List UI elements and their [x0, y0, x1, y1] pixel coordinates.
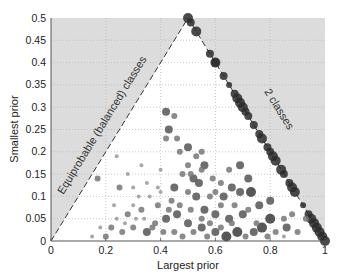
data-point	[245, 207, 251, 213]
x-tick-label: 0	[48, 244, 54, 256]
data-point	[95, 176, 101, 182]
data-point	[228, 183, 236, 191]
data-point	[265, 214, 275, 224]
data-point	[185, 162, 191, 168]
data-point	[188, 171, 194, 177]
data-point	[117, 184, 123, 190]
data-point	[184, 219, 192, 227]
data-point	[303, 216, 309, 222]
data-point	[218, 180, 224, 186]
data-point	[207, 220, 213, 226]
y-tick-label: 0.3	[31, 101, 46, 113]
data-point	[218, 202, 224, 208]
data-point	[170, 183, 178, 191]
data-point	[177, 149, 183, 155]
y-tick-label: 0.15	[26, 168, 47, 180]
data-point	[211, 210, 219, 218]
data-point	[192, 192, 200, 200]
data-point	[177, 202, 183, 208]
y-tick-label: 0.1	[31, 190, 46, 202]
data-point	[166, 207, 172, 213]
data-point	[221, 232, 231, 242]
data-point	[198, 224, 206, 232]
data-point	[184, 143, 192, 151]
y-tick-label: 0.2	[31, 145, 46, 157]
data-point	[134, 217, 138, 221]
y-tick-label: 0.25	[26, 123, 47, 135]
data-point	[220, 192, 228, 200]
data-point	[148, 194, 152, 198]
data-point	[137, 194, 141, 198]
data-point	[139, 163, 143, 167]
data-point	[283, 224, 291, 232]
data-point	[193, 153, 199, 159]
data-point	[281, 216, 287, 222]
data-point	[300, 202, 306, 208]
data-point	[239, 210, 247, 218]
data-point	[115, 154, 119, 158]
data-point	[244, 175, 252, 183]
data-point	[199, 167, 205, 173]
data-point	[119, 229, 125, 235]
data-point	[282, 235, 286, 239]
data-point	[160, 229, 166, 235]
y-tick-label: 0.5	[31, 12, 46, 24]
data-point	[159, 168, 163, 172]
data-point	[143, 228, 151, 236]
x-axis-label: Largest prior	[157, 259, 219, 271]
data-point	[98, 226, 102, 230]
scatter-chart: 00.20.40.60.81 00.050.10.150.20.250.30.3…	[0, 0, 341, 277]
data-point	[232, 227, 242, 237]
data-point	[145, 181, 149, 185]
data-point	[290, 187, 300, 197]
x-tick-label: 0.8	[263, 244, 278, 256]
data-point	[250, 121, 258, 129]
y-tick-label: 0	[40, 235, 46, 247]
data-point	[212, 189, 218, 195]
data-point	[142, 217, 146, 221]
data-point	[155, 202, 161, 208]
data-point	[174, 135, 180, 141]
data-point	[180, 171, 186, 177]
data-point	[199, 149, 205, 155]
data-point	[210, 176, 216, 182]
data-point	[188, 207, 194, 213]
data-point	[255, 201, 263, 209]
data-point	[130, 225, 136, 231]
data-point	[156, 185, 160, 189]
data-point	[236, 188, 244, 196]
data-point	[266, 197, 274, 205]
data-point	[280, 170, 288, 178]
data-point	[190, 229, 196, 235]
data-point	[185, 189, 191, 195]
data-point	[191, 26, 201, 36]
data-point	[162, 108, 170, 116]
data-point	[195, 179, 203, 187]
data-point	[204, 234, 210, 240]
data-point	[250, 228, 258, 236]
data-point	[220, 72, 228, 80]
data-point	[226, 82, 232, 88]
data-point	[232, 202, 238, 208]
data-point	[211, 228, 219, 236]
data-point	[211, 59, 219, 67]
data-point	[271, 156, 281, 166]
data-point	[289, 211, 295, 217]
data-point	[171, 113, 177, 119]
data-point	[206, 50, 214, 58]
data-point	[295, 229, 301, 235]
data-point	[229, 220, 235, 226]
y-tick-label: 0.4	[31, 56, 46, 68]
data-point	[244, 112, 252, 120]
data-point	[162, 215, 170, 223]
data-point	[115, 217, 119, 221]
data-point	[126, 172, 130, 176]
data-point	[112, 203, 116, 207]
data-point	[257, 133, 267, 143]
data-point	[165, 126, 173, 134]
y-tick-label: 0.35	[26, 78, 47, 90]
y-axis-label: Smallest prior	[8, 95, 20, 163]
y-tick-label: 0.05	[26, 212, 47, 224]
data-point	[199, 216, 205, 222]
data-point	[187, 18, 195, 26]
